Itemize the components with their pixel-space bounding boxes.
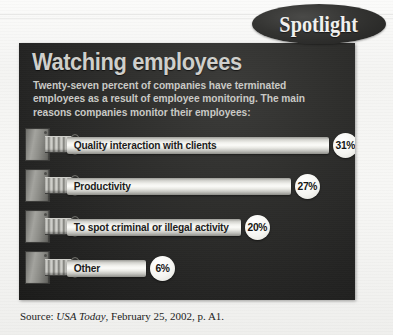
intro-paragraph: Twenty-seven percent of companies have t… xyxy=(33,79,333,119)
source-prefix: Source: xyxy=(20,310,56,322)
source-suffix: , February 25, 2002, p. A1. xyxy=(106,310,225,322)
bar-label: Productivity xyxy=(67,181,131,192)
chart-row: Other 6% xyxy=(19,249,355,290)
value-label: 27% xyxy=(298,181,318,192)
chart-row: To spot criminal or illegal activity 20% xyxy=(19,208,355,249)
value-label: 31% xyxy=(336,140,355,151)
value-bubble-productivity: 27% xyxy=(295,174,320,199)
value-bubble-to-spot-criminal-or-illegal-activity: 20% xyxy=(245,215,270,240)
bar-label: To spot criminal or illegal activity xyxy=(67,222,229,233)
spotlight-badge: Spotlight xyxy=(252,4,386,44)
value-bubble-quality-interaction-with-clients: 31% xyxy=(333,133,355,158)
source-publication: USA Today xyxy=(56,310,105,322)
bar-quality-interaction-with-clients: Quality interaction with clients xyxy=(67,137,329,154)
value-label: 20% xyxy=(248,222,268,233)
page-title: Watching employees xyxy=(32,49,242,76)
chart-row: Quality interaction with clients 31% xyxy=(19,126,355,167)
camera-screw-icon xyxy=(44,172,47,175)
bar-other: Other xyxy=(67,260,146,277)
bar-productivity: Productivity xyxy=(67,178,291,195)
source-caption: Source: USA Today, February 25, 2002, p.… xyxy=(20,310,224,322)
spotlight-badge-label: Spotlight xyxy=(280,13,359,36)
infographic-panel: Watching employees Twenty-seven percent … xyxy=(19,43,355,300)
chart-row: Productivity 27% xyxy=(19,167,355,208)
camera-screw-icon xyxy=(44,254,47,257)
bar-label: Other xyxy=(67,263,100,274)
value-bubble-other: 6% xyxy=(150,256,175,281)
value-label: 6% xyxy=(155,263,169,274)
bar-label: Quality interaction with clients xyxy=(67,140,217,151)
camera-screw-icon xyxy=(44,213,47,216)
bar-to-spot-criminal-or-illegal-activity: To spot criminal or illegal activity xyxy=(67,219,241,236)
camera-screw-icon xyxy=(44,131,47,134)
bar-chart: Quality interaction with clients 31% Pro… xyxy=(19,126,355,290)
